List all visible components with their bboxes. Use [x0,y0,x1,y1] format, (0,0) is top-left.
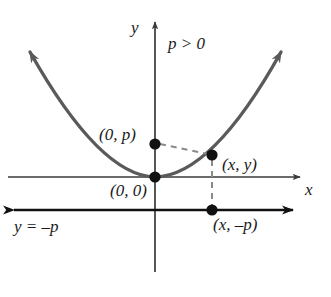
point-vertex [149,171,160,182]
curve-point-label: (x, y) [222,156,257,173]
x-axis-label: x [305,181,313,198]
point-curve-point [206,149,217,160]
directrix-point-label: (x, –p) [213,216,257,233]
focus-point-label: (0, p) [99,126,136,143]
directrix-equation-label: y = –p [14,218,59,235]
condition-label: p > 0 [168,35,205,52]
point-focus [149,138,160,149]
origin-label: (0, 0) [110,182,147,199]
focal-radius-dashed [160,144,208,154]
point-directrix-point [206,204,217,215]
parabola-left-arm [30,52,155,177]
parabola-right-arm [155,52,281,177]
figure-canvas [0,0,331,297]
y-axis-label: y [131,19,139,36]
parabola-figure: y x p > 0 (0, p) (x, y) (0, 0) (x, –p) y… [0,0,331,297]
